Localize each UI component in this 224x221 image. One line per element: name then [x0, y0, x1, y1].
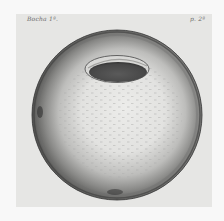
engraving-page: Bocha 1ª. p. 2ª: [0, 0, 224, 221]
opening-interior: [89, 62, 147, 82]
sphere-drawing: [0, 0, 224, 221]
